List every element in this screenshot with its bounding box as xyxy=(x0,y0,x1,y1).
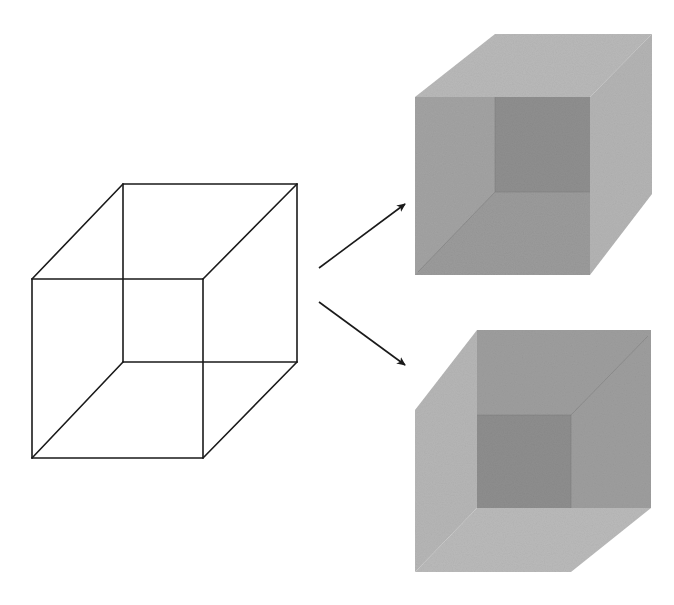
arrow-to-bottom-interpretation xyxy=(319,302,405,365)
wireframe-edge xyxy=(32,362,123,458)
cube-viewed-from-below: Interpretation 2: viewed from below (fro… xyxy=(415,330,651,572)
wireframe-edge xyxy=(203,362,297,458)
inner-back-square xyxy=(477,415,571,508)
arrow-to-top-interpretation xyxy=(319,204,405,268)
inner-back-square xyxy=(495,97,590,192)
interpretations: Interpretation 1: viewed from above (fro… xyxy=(415,34,652,572)
arrows xyxy=(319,204,405,365)
wireframe-edge xyxy=(32,184,123,279)
necker-cube-diagram: Interpretation 1: viewed from above (fro… xyxy=(0,0,674,605)
cube-viewed-from-above: Interpretation 1: viewed from above (fro… xyxy=(415,34,652,275)
wireframe-edge xyxy=(203,184,297,279)
wireframe-cube xyxy=(32,184,297,458)
